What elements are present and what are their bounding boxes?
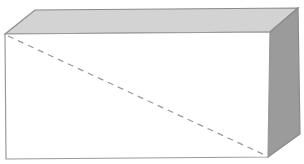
- prism-right-face: [268, 8, 300, 157]
- rectangular-prism-diagram: [0, 0, 304, 164]
- prism-front-face: [5, 32, 270, 159]
- prism-top-face: [5, 8, 298, 34]
- diagram-canvas: [0, 0, 304, 164]
